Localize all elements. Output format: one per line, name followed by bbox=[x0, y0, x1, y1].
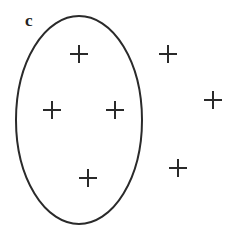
diagram-canvas bbox=[0, 0, 233, 239]
plus-marker-icon bbox=[79, 169, 97, 187]
plus-marker-icon bbox=[106, 101, 124, 119]
inside-points-group bbox=[43, 45, 124, 187]
plus-marker-icon bbox=[159, 45, 177, 63]
plus-marker-icon bbox=[169, 159, 187, 177]
plus-marker-icon bbox=[70, 45, 88, 63]
plus-marker-icon bbox=[204, 91, 222, 109]
plus-marker-icon bbox=[43, 101, 61, 119]
outside-points-group bbox=[159, 45, 222, 177]
